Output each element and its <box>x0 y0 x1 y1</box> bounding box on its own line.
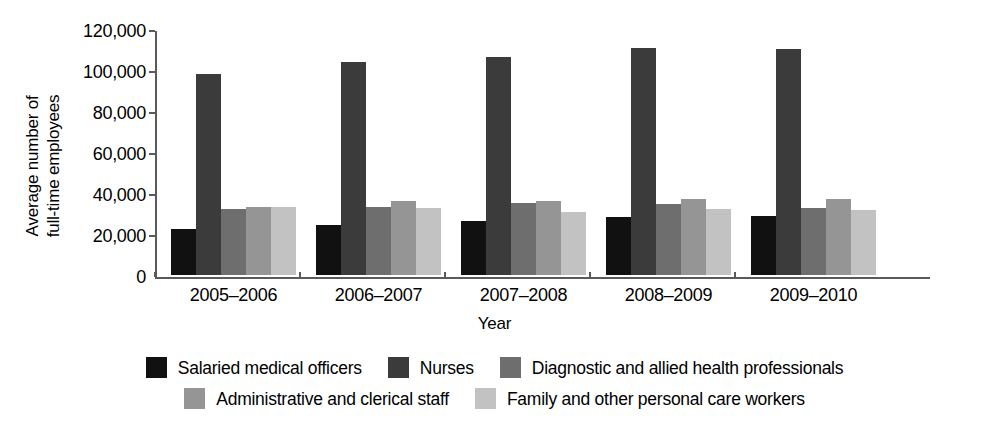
bar <box>221 209 246 275</box>
y-tick-label: 40,000 <box>46 186 146 204</box>
y-axis-line <box>155 31 157 278</box>
y-tick-label: 100,000 <box>46 63 146 81</box>
legend-swatch-icon <box>475 388 496 409</box>
x-axis-title: Year <box>0 314 989 334</box>
x-tick-label: 2009–2010 <box>734 285 894 305</box>
bar <box>341 62 366 275</box>
legend-row-top: Salaried medical officersNursesDiagnosti… <box>0 352 989 383</box>
x-tick-mark <box>589 272 591 277</box>
bar <box>776 49 801 275</box>
legend-item: Administrative and clerical staff <box>184 388 449 409</box>
bar <box>706 209 731 275</box>
y-tick-label: 80,000 <box>46 104 146 122</box>
y-tick-mark <box>149 235 155 237</box>
y-tick-label: 20,000 <box>46 227 146 245</box>
x-axis-line <box>155 277 930 279</box>
bar-group <box>171 29 296 275</box>
x-tick-mark <box>154 272 156 277</box>
legend-swatch-icon <box>184 388 205 409</box>
legend-label: Family and other personal care workers <box>507 389 805 409</box>
legend-label: Administrative and clerical staff <box>216 389 449 409</box>
bar <box>511 203 536 275</box>
y-tick-label: 0 <box>46 268 146 286</box>
y-tick-mark <box>149 112 155 114</box>
bar-group <box>461 29 586 275</box>
y-tick-label: 60,000 <box>46 145 146 163</box>
bar <box>751 216 776 275</box>
bar <box>486 57 511 275</box>
x-tick-mark <box>299 272 301 277</box>
bar <box>461 221 486 275</box>
x-tick-label: 2008–2009 <box>589 285 749 305</box>
legend-label: Nurses <box>420 358 474 378</box>
legend-label: Diagnostic and allied health professiona… <box>532 358 844 378</box>
chart-figure: Average number of full-time employees 02… <box>0 0 989 439</box>
legend-item: Nurses <box>388 357 474 378</box>
y-tick-mark <box>149 71 155 73</box>
legend-row-bottom: Administrative and clerical staffFamily … <box>0 383 989 414</box>
bar <box>271 207 296 275</box>
bar <box>801 208 826 275</box>
legend-swatch-icon <box>500 357 521 378</box>
bar <box>316 225 341 275</box>
x-tick-mark <box>734 272 736 277</box>
bar <box>681 199 706 275</box>
bar-group <box>316 29 441 275</box>
x-tick-mark <box>444 272 446 277</box>
chart-legend: Salaried medical officersNursesDiagnosti… <box>0 352 989 414</box>
bar <box>171 229 196 275</box>
y-tick-mark <box>149 30 155 32</box>
bar <box>631 48 656 275</box>
y-tick-mark <box>149 153 155 155</box>
legend-label: Salaried medical officers <box>178 358 362 378</box>
bar <box>196 74 221 275</box>
bar <box>391 201 416 275</box>
x-tick-label: 2006–2007 <box>299 285 459 305</box>
bar <box>416 208 441 275</box>
x-tick-label: 2005–2006 <box>154 285 314 305</box>
legend-item: Family and other personal care workers <box>475 388 805 409</box>
legend-swatch-icon <box>146 357 167 378</box>
plot-area <box>155 31 930 277</box>
bar <box>851 210 876 275</box>
legend-swatch-icon <box>388 357 409 378</box>
bar <box>826 199 851 275</box>
legend-item: Salaried medical officers <box>146 357 362 378</box>
legend-item: Diagnostic and allied health professiona… <box>500 357 844 378</box>
y-tick-mark <box>149 194 155 196</box>
y-tick-label: 120,000 <box>46 22 146 40</box>
bar <box>561 212 586 275</box>
bar-group <box>606 29 731 275</box>
bar <box>366 207 391 275</box>
bar <box>656 204 681 275</box>
bar <box>536 201 561 275</box>
bar <box>246 207 271 275</box>
x-tick-label: 2007–2008 <box>444 285 604 305</box>
bar <box>606 217 631 275</box>
bar-group <box>751 29 876 275</box>
